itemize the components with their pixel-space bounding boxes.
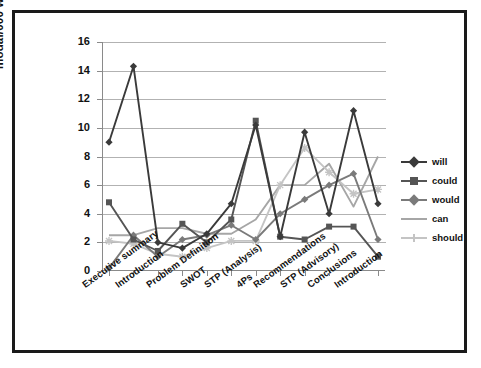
legend-marker-square-icon: [401, 174, 427, 188]
legend-label: would: [427, 194, 459, 205]
chart-screenshot: modal/000 words 1614121086420 Executive …: [0, 0, 481, 368]
y-tick-label: 4: [54, 207, 90, 219]
legend-label: could: [427, 175, 457, 186]
legend-item-will[interactable]: will: [401, 152, 481, 171]
x-tick-mark: [182, 271, 183, 276]
legend-item-can[interactable]: can: [401, 209, 481, 228]
series-will: [105, 63, 381, 252]
y-tick-label: 8: [54, 150, 90, 162]
legend-item-could[interactable]: could: [401, 171, 481, 190]
chart-frame: modal/000 words 1614121086420 Executive …: [12, 10, 467, 353]
legend-label: can: [427, 213, 448, 224]
y-tick-label: 12: [54, 92, 90, 104]
legend-item-should[interactable]: should: [401, 228, 481, 247]
legend-marker-star-icon: [401, 231, 427, 245]
y-tick-label: 2: [54, 235, 90, 247]
y-tick-label: 14: [54, 64, 90, 76]
legend-marker-diamond-icon: [401, 155, 427, 169]
y-tick-label: 10: [54, 121, 90, 133]
y-axis-title: modal/000 words: [0, 0, 5, 69]
legend-item-would[interactable]: would: [401, 190, 481, 209]
x-tick-mark: [378, 271, 379, 276]
legend-label: should: [427, 232, 463, 243]
chart-legend: willcouldwouldcanshould: [401, 152, 481, 247]
y-tick-label: 16: [54, 35, 90, 47]
legend-marker-diamond-icon: [401, 193, 427, 207]
y-tick-label: 0: [54, 264, 90, 276]
legend-marker-none-icon: [401, 212, 427, 226]
legend-label: will: [427, 156, 447, 167]
y-tick-label: 6: [54, 178, 90, 190]
